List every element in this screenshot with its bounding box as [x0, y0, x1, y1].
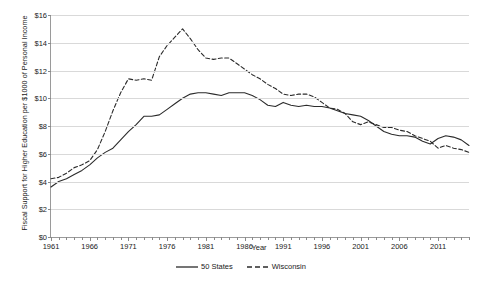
x-tick-mark-minor	[423, 237, 424, 240]
gridline	[51, 154, 469, 155]
y-tick-mark	[48, 126, 51, 127]
x-tick-mark-major	[361, 237, 362, 241]
gridline	[51, 71, 469, 72]
x-tick-mark-minor	[376, 237, 377, 240]
y-tick-label: $16	[34, 11, 47, 20]
x-tick-mark-minor	[175, 237, 176, 240]
legend-label: 50 States	[201, 262, 233, 271]
x-tick-mark-minor	[392, 237, 393, 240]
x-tick-mark-minor	[237, 237, 238, 240]
x-tick-mark-minor	[121, 237, 122, 240]
x-tick-mark-minor	[469, 237, 470, 240]
x-tick-mark-minor	[136, 237, 137, 240]
x-tick-mark-minor	[152, 237, 153, 240]
x-tick-mark-minor	[299, 237, 300, 240]
x-tick-mark-minor	[113, 237, 114, 240]
x-tick-mark-minor	[198, 237, 199, 240]
x-tick-mark-minor	[330, 237, 331, 240]
x-tick-mark-major	[438, 237, 439, 241]
x-tick-mark-major	[90, 237, 91, 241]
legend-item-wisconsin[interactable]: Wisconsin	[247, 262, 306, 271]
x-tick-mark-major	[245, 237, 246, 241]
y-tick-label: $14	[34, 38, 47, 47]
gridline	[51, 15, 469, 16]
x-tick-mark-minor	[252, 237, 253, 240]
x-tick-mark-major	[128, 237, 129, 241]
y-axis-title: Fiscal Support for Higher Education per …	[20, 8, 30, 238]
x-tick-mark-minor	[97, 237, 98, 240]
y-tick-label: $12	[34, 66, 47, 75]
y-tick-label: $4	[39, 177, 47, 186]
x-tick-mark-minor	[74, 237, 75, 240]
legend-item-50-states[interactable]: 50 States	[176, 262, 233, 271]
x-tick-mark-minor	[415, 237, 416, 240]
x-tick-mark-major	[322, 237, 323, 241]
x-tick-mark-major	[167, 237, 168, 241]
x-tick-mark-minor	[260, 237, 261, 240]
y-tick-mark	[48, 15, 51, 16]
x-tick-mark-minor	[306, 237, 307, 240]
dashed-line-icon	[247, 264, 269, 270]
y-tick-mark	[48, 43, 51, 44]
x-tick-mark-minor	[345, 237, 346, 240]
x-tick-mark-major	[283, 237, 284, 241]
line-chart: Fiscal Support for Higher Education per …	[0, 0, 482, 287]
x-tick-mark-minor	[368, 237, 369, 240]
x-tick-mark-minor	[407, 237, 408, 240]
x-tick-mark-minor	[291, 237, 292, 240]
x-axis-title: Year	[50, 243, 468, 252]
x-tick-mark-minor	[268, 237, 269, 240]
x-tick-mark-minor	[353, 237, 354, 240]
gridline	[51, 98, 469, 99]
y-tick-label: $0	[39, 233, 47, 242]
gridline	[51, 43, 469, 44]
y-tick-mark	[48, 182, 51, 183]
y-tick-label: $10	[34, 94, 47, 103]
y-tick-label: $2	[39, 205, 47, 214]
x-tick-mark-minor	[229, 237, 230, 240]
chart-legend: 50 StatesWisconsin	[0, 262, 482, 271]
x-tick-mark-minor	[384, 237, 385, 240]
y-tick-label: $6	[39, 149, 47, 158]
x-tick-mark-minor	[446, 237, 447, 240]
gridline	[51, 209, 469, 210]
x-tick-mark-minor	[337, 237, 338, 240]
y-tick-label: $8	[39, 122, 47, 131]
x-tick-mark-minor	[183, 237, 184, 240]
legend-label: Wisconsin	[272, 262, 306, 271]
y-tick-mark	[48, 154, 51, 155]
x-tick-mark-minor	[59, 237, 60, 240]
x-tick-mark-minor	[190, 237, 191, 240]
x-tick-mark-minor	[214, 237, 215, 240]
series-line-wisconsin	[51, 29, 469, 179]
series-line-50-states	[51, 93, 469, 187]
x-tick-mark-minor	[430, 237, 431, 240]
x-tick-mark-minor	[159, 237, 160, 240]
x-tick-mark-minor	[221, 237, 222, 240]
y-tick-mark	[48, 71, 51, 72]
x-tick-mark-major	[399, 237, 400, 241]
y-tick-mark	[48, 209, 51, 210]
x-tick-mark-minor	[144, 237, 145, 240]
plot-area: $0$2$4$6$8$10$12$14$16196119661971197619…	[50, 15, 469, 238]
gridline	[51, 126, 469, 127]
x-tick-mark-major	[206, 237, 207, 241]
x-tick-mark-minor	[105, 237, 106, 240]
x-tick-mark-minor	[82, 237, 83, 240]
x-tick-mark-major	[51, 237, 52, 241]
x-tick-mark-minor	[461, 237, 462, 240]
x-tick-mark-minor	[454, 237, 455, 240]
x-tick-mark-minor	[66, 237, 67, 240]
y-tick-mark	[48, 98, 51, 99]
x-tick-mark-minor	[314, 237, 315, 240]
solid-line-icon	[176, 264, 198, 270]
gridline	[51, 182, 469, 183]
x-tick-mark-minor	[275, 237, 276, 240]
